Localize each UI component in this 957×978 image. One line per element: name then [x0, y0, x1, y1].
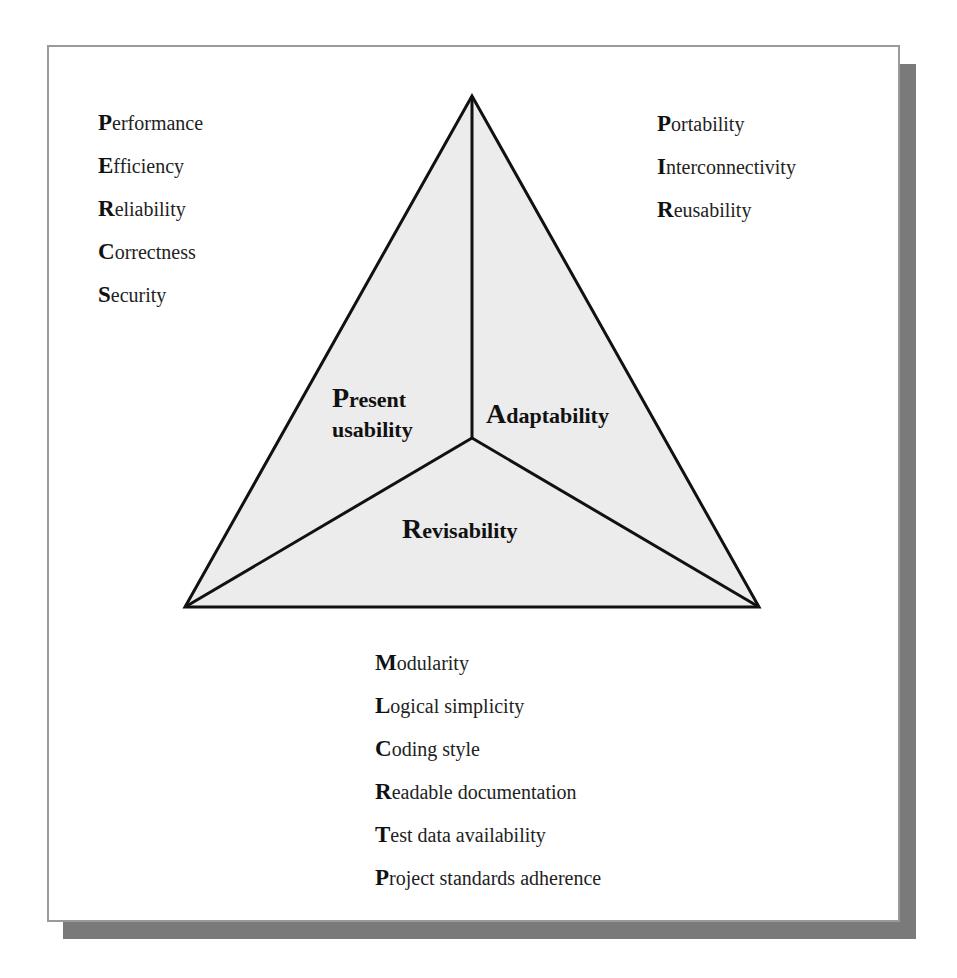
list-item: Correctness	[98, 230, 203, 273]
label-rest: evisability	[422, 518, 517, 543]
present-usability-list: Performance Efficiency Reliability Corre…	[98, 101, 203, 316]
list-item: Reusability	[657, 188, 796, 231]
item-text: fficiency	[113, 155, 184, 177]
item-initial: S	[98, 282, 111, 307]
item-text: eusability	[674, 199, 752, 221]
item-initial: M	[375, 650, 397, 675]
label-initial: R	[402, 513, 422, 544]
item-text: eadable documentation	[392, 781, 577, 803]
item-initial: E	[98, 153, 113, 178]
item-text: est data availability	[390, 824, 546, 846]
list-item: Modularity	[375, 641, 601, 684]
item-text: eliability	[115, 198, 186, 220]
item-initial: C	[375, 736, 392, 761]
list-item: Performance	[98, 101, 203, 144]
item-initial: P	[98, 110, 112, 135]
list-item: Coding style	[375, 727, 601, 770]
item-text: ecurity	[111, 284, 167, 306]
list-item: Logical simplicity	[375, 684, 601, 727]
list-item: Readable documentation	[375, 770, 601, 813]
list-item: Test data availability	[375, 813, 601, 856]
item-initial: R	[657, 197, 674, 222]
region-label-present-usability: Present usability	[332, 383, 432, 445]
list-item: Portability	[657, 102, 796, 145]
item-initial: I	[657, 154, 666, 179]
label-rest: resent	[349, 387, 406, 412]
adaptability-list: Portability Interconnectivity Reusabilit…	[657, 102, 796, 231]
list-item: Reliability	[98, 187, 203, 230]
label-initial: A	[486, 398, 506, 429]
list-item: Interconnectivity	[657, 145, 796, 188]
label-initial: P	[332, 382, 349, 413]
item-text: ogical simplicity	[390, 695, 524, 717]
list-item: Security	[98, 273, 203, 316]
item-initial: R	[98, 196, 115, 221]
item-initial: P	[657, 111, 671, 136]
list-item: Efficiency	[98, 144, 203, 187]
item-text: orrectness	[115, 241, 196, 263]
item-initial: P	[375, 865, 389, 890]
label-rest: daptability	[506, 403, 609, 428]
item-text: ortability	[671, 113, 744, 135]
region-label-adaptability: Adaptability	[486, 399, 609, 431]
list-item: Project standards adherence	[375, 856, 601, 899]
item-text: roject standards adherence	[389, 867, 601, 889]
item-text: erformance	[112, 112, 203, 134]
item-initial: L	[375, 693, 390, 718]
revisability-list: Modularity Logical simplicity Coding sty…	[375, 641, 601, 899]
item-text: odularity	[397, 652, 469, 674]
label-line2: usability	[332, 415, 432, 445]
item-initial: C	[98, 239, 115, 264]
item-initial: R	[375, 779, 392, 804]
item-text: nterconnectivity	[666, 156, 796, 178]
item-initial: T	[375, 822, 390, 847]
item-text: oding style	[392, 738, 480, 760]
region-label-revisability: Revisability	[402, 514, 518, 546]
